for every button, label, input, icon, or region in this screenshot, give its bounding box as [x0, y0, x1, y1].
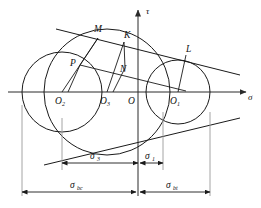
dim-sub-sigma-bt: bt — [173, 185, 178, 191]
dim-base-sigma1: σ — [145, 151, 150, 161]
dim-label-sigma-bc: σ bc — [70, 180, 83, 191]
center-base-O2: O — [55, 96, 62, 106]
center-label-O3: O 3 — [100, 96, 110, 107]
dimension-row-2: σ bc σ bt — [22, 180, 210, 192]
chord-P-N-L — [80, 65, 186, 91]
center-label-O1: O 1 — [170, 96, 180, 107]
mohr-circle-figure: τ σ M K L P — [0, 0, 261, 208]
dim-label-sigma1: σ 1 — [145, 151, 155, 162]
sigma-axis-label: σ — [248, 92, 253, 102]
dim-base-sigma3: σ — [90, 151, 95, 161]
upper-envelope-line — [56, 29, 240, 75]
drop-P-axis — [68, 65, 80, 92]
dim-label-sigma-bt: σ bt — [166, 180, 178, 191]
center-base-O1: O — [170, 96, 177, 106]
center-label-O2: O 2 — [55, 96, 65, 107]
center-base-O3: O — [100, 96, 107, 106]
point-label-P: P — [69, 58, 76, 68]
dim-sub-sigma3: 3 — [96, 156, 100, 162]
lower-envelope-line — [44, 118, 240, 165]
dim-base-sigma-bt: σ — [166, 180, 171, 190]
center-sub-O2: 2 — [62, 101, 65, 107]
origin-label-O: O — [128, 96, 135, 106]
center-labels-group: O 2 O 3 O O 1 — [55, 96, 180, 107]
center-sub-O3: 3 — [106, 101, 110, 107]
point-label-L: L — [185, 44, 191, 54]
dim-sub-sigma-bc: bc — [77, 185, 83, 191]
tau-axis-label: τ — [146, 6, 150, 16]
segment-M-P — [80, 38, 98, 65]
center-sub-O1: 1 — [177, 101, 180, 107]
dim-sub-sigma1: 1 — [152, 156, 155, 162]
dim-base-sigma-bc: σ — [70, 180, 75, 190]
diagram-canvas: τ σ M K L P — [0, 0, 261, 208]
point-label-M: M — [93, 24, 103, 34]
point-label-N: N — [119, 64, 127, 74]
point-label-K: K — [123, 30, 131, 40]
